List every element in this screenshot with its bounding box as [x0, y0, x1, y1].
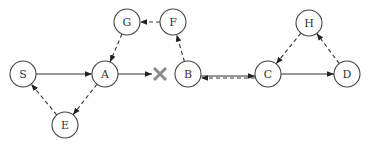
node-h: H	[296, 10, 322, 36]
node-label: E	[61, 119, 69, 132]
edge-b-to-f	[177, 34, 185, 61]
edge-h-to-c	[276, 33, 301, 64]
node-s: S	[10, 61, 36, 87]
node-a: A	[92, 61, 118, 87]
node-d: D	[334, 61, 360, 87]
node-label: D	[343, 68, 352, 81]
node-label: B	[184, 68, 192, 81]
node-label: F	[169, 16, 177, 29]
node-c: C	[255, 61, 281, 87]
edge-g-to-a	[110, 34, 122, 62]
edge-a-to-e	[73, 84, 97, 115]
node-g: G	[114, 9, 140, 35]
node-label: S	[19, 68, 27, 81]
edge-d-to-h	[317, 33, 339, 63]
node-label: H	[304, 17, 314, 30]
node-label: C	[264, 68, 272, 81]
node-b: B	[175, 61, 201, 87]
edge-e-to-s	[31, 84, 56, 115]
node-label: G	[123, 16, 132, 29]
node-label: A	[100, 68, 110, 81]
blocked-cross-icon	[154, 68, 166, 80]
graph-diagram: SAGFEBCDH	[0, 0, 369, 147]
node-f: F	[160, 9, 186, 35]
node-e: E	[52, 112, 78, 138]
